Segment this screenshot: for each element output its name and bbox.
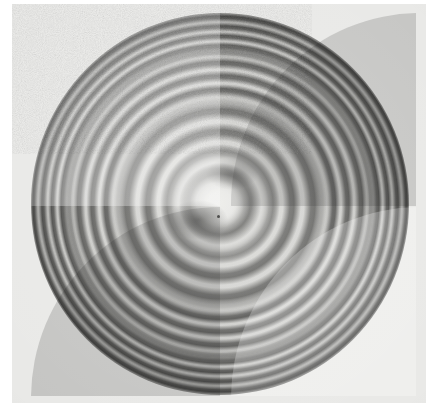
interferogram-disc (20, 12, 416, 396)
page-margin-top (0, 0, 436, 4)
center-point-marker (217, 215, 220, 218)
page-margin-left (0, 0, 12, 420)
page-margin-bottom (0, 403, 436, 420)
photographic-print (12, 4, 426, 403)
screenshot-canvas (0, 0, 436, 420)
page-margin-right (426, 0, 436, 420)
